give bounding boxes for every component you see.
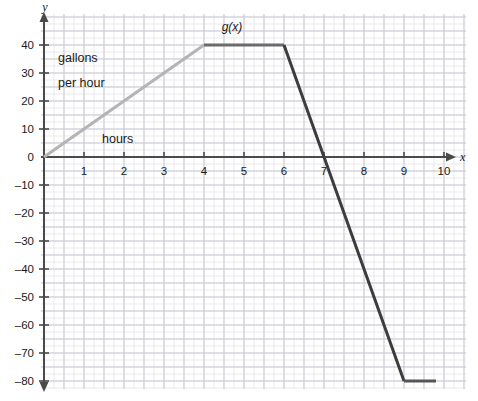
x-axis-name-label: x — [459, 150, 466, 164]
y-axis-units-label-line2: per hour — [58, 76, 105, 90]
x-axis-tick-label: 2 — [121, 165, 127, 177]
x-axis-tick-label: 4 — [201, 165, 208, 177]
y-axis-units-label-line1: gallons — [58, 51, 98, 65]
x-axis-tick-label: 10 — [438, 165, 451, 177]
y-axis-tick-label: 30 — [21, 67, 34, 79]
y-axis-tick-label: 10 — [21, 123, 34, 135]
x-axis-tick-label: 9 — [401, 165, 407, 177]
x-axis-tick-label: 6 — [281, 165, 287, 177]
y-axis-tick-label: –10 — [15, 179, 34, 191]
y-axis-tick-label: –60 — [15, 319, 34, 331]
y-axis-tick-label: –70 — [15, 347, 34, 359]
x-axis-tick-label: 5 — [241, 165, 247, 177]
y-axis-tick-label: –80 — [15, 375, 34, 387]
y-axis-tick-label: 40 — [21, 39, 34, 51]
x-axis-tick-label: 1 — [81, 165, 87, 177]
y-axis-tick-label: –20 — [15, 207, 34, 219]
x-axis-tick-label: 3 — [161, 165, 167, 177]
x-axis-units-label: hours — [102, 132, 133, 146]
coordinate-plane: 12345678910 403020100–10–20–30–40–50–60–… — [0, 0, 478, 401]
y-axis-tick-label: –50 — [15, 291, 34, 303]
x-axis-tick-label: 8 — [361, 165, 367, 177]
y-axis-tick-label: –40 — [15, 263, 34, 275]
graph-figure: 12345678910 403020100–10–20–30–40–50–60–… — [0, 0, 478, 401]
y-axis-tick-label: 20 — [21, 95, 34, 107]
y-axis-tick-label: –30 — [15, 235, 34, 247]
curve-name-label: g(x) — [222, 20, 243, 34]
y-axis-name-label: y — [41, 0, 48, 14]
y-axis-tick-label: 0 — [28, 151, 34, 163]
